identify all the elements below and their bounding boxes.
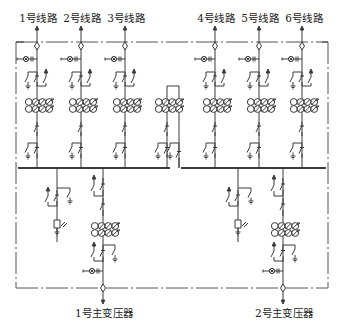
- line: [247, 147, 250, 153]
- earthing-switch-icon: [25, 72, 31, 89]
- arrow-up-icon: [213, 26, 217, 30]
- ground-icon: [236, 232, 241, 235]
- live-indicator-icon: [83, 268, 103, 273]
- single-line-diagram: 1号线路2号线路3号线路4号线路5号线路6号线路1号主变压器2号主变压器: [0, 0, 344, 328]
- line: [113, 147, 116, 153]
- live-indicator-icon: [239, 56, 259, 61]
- earthing-switch-icon: [292, 245, 298, 262]
- earthing-switch-icon: [45, 187, 50, 206]
- line: [112, 249, 115, 255]
- line: [131, 77, 134, 83]
- ct-core: [155, 106, 162, 113]
- current-transformer-icon: [91, 223, 120, 237]
- earthing-switch-icon: [271, 242, 276, 261]
- earthing-switch-icon: [167, 143, 173, 159]
- feeder-bay-6: [282, 26, 319, 168]
- current-transformer-icon: [271, 223, 300, 237]
- line: [290, 147, 293, 153]
- ground-icon: [291, 156, 296, 159]
- cable-sealing-end-icon: [79, 42, 84, 50]
- line: [226, 196, 229, 202]
- current-transformer-icon: [25, 99, 54, 113]
- ct-core: [247, 106, 254, 113]
- arrow-up-icon: [300, 26, 304, 30]
- ground-icon: [249, 201, 254, 204]
- ct-core: [69, 99, 76, 106]
- feeder-label-5: 5号线路: [241, 10, 278, 25]
- line: [25, 147, 28, 153]
- ground-icon: [55, 232, 60, 235]
- ground-icon: [204, 156, 209, 159]
- ct-core: [271, 223, 278, 230]
- ground-icon: [114, 156, 119, 159]
- line: [91, 251, 94, 257]
- earthing-switch-icon: [271, 175, 276, 196]
- feeder-bay-2: [61, 26, 98, 168]
- rect: [54, 220, 60, 228]
- arrow-up-icon: [266, 69, 270, 73]
- ground-icon: [113, 259, 118, 262]
- arrow-up-icon: [46, 187, 50, 191]
- earthing-switch-icon: [69, 143, 75, 159]
- transformer-label-2: 2号主变压器: [255, 305, 313, 320]
- ground-icon: [26, 156, 31, 159]
- ct-core: [203, 99, 210, 106]
- live-indicator-icon: [17, 56, 37, 61]
- ground-icon: [114, 86, 119, 89]
- line: [290, 76, 293, 82]
- current-transformer-icon: [290, 99, 319, 113]
- line: [203, 76, 206, 82]
- live-indicator-icon: [282, 56, 302, 61]
- incomer-bay-2: [226, 168, 300, 304]
- current-transformer-icon: [247, 99, 276, 113]
- bay-enclosure-border: [16, 42, 328, 288]
- line: [292, 249, 295, 255]
- ground-icon: [68, 201, 73, 204]
- line: [271, 185, 274, 191]
- line: [265, 77, 268, 83]
- ct-core: [155, 99, 162, 106]
- line: [155, 147, 158, 153]
- earthing-switch-icon: [113, 143, 119, 159]
- earthing-switch-icon: [221, 69, 226, 86]
- line: [271, 251, 274, 257]
- current-transformer-icon: [203, 99, 232, 113]
- earthing-switch-icon: [290, 72, 296, 89]
- ct-core: [69, 106, 76, 113]
- line: [69, 76, 72, 82]
- cable-sealing-end-icon: [300, 42, 305, 50]
- incomer-bay-1: [45, 168, 120, 304]
- earthing-switch-icon: [91, 175, 96, 196]
- ground-icon: [248, 86, 253, 89]
- cable-sealing-end-icon: [213, 42, 218, 50]
- surge-arrester-icon: [54, 220, 67, 235]
- ct-core: [25, 99, 32, 106]
- earthing-switch-icon: [131, 69, 136, 86]
- line: [203, 147, 206, 153]
- ground-icon: [168, 156, 173, 159]
- ct-core: [113, 106, 120, 113]
- earthing-switch-icon: [290, 143, 296, 159]
- rect: [235, 220, 241, 228]
- earthing-switch-icon: [43, 69, 48, 86]
- line: [247, 76, 250, 82]
- ground-icon: [26, 86, 31, 89]
- arrow-down-icon: [101, 300, 105, 304]
- live-indicator-icon: [195, 56, 215, 61]
- ct-core: [290, 106, 297, 113]
- cable-sealing-end-icon: [123, 42, 128, 50]
- earthing-switch-icon: [67, 188, 73, 204]
- earthing-switch-icon: [203, 72, 209, 89]
- ground-icon: [70, 86, 75, 89]
- line: [248, 192, 251, 198]
- cable-sealing-end-icon: [281, 284, 286, 292]
- cable-sealing-end-icon: [257, 42, 262, 50]
- arrow-up-icon: [79, 26, 83, 30]
- line: [67, 192, 70, 198]
- ct-core: [91, 223, 98, 230]
- earthing-switch-icon: [247, 143, 253, 159]
- feeder-label-6: 6号线路: [285, 10, 322, 25]
- earthing-switch-icon: [112, 245, 118, 262]
- feeder-bay-1: [17, 26, 54, 168]
- earthing-switch-icon: [265, 69, 270, 86]
